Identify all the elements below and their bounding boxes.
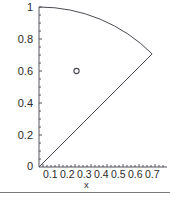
y-tick-label-0-2: 0.2 — [18, 130, 33, 141]
series-radius-line — [39, 54, 152, 167]
x-axis-title: x — [84, 180, 89, 190]
x-tick-label-0-7: 0.7 — [145, 168, 160, 180]
x-tick-label-0-4: 0.4 — [94, 168, 109, 180]
y-tick-label-0-8: 0.8 — [18, 34, 33, 45]
x-tick-label-0-6: 0.6 — [128, 168, 143, 180]
series-unit-circle-arc — [39, 7, 152, 54]
chart-figure: 1 0.8 0.6 0.4 0.2 0 0.1 0.2 0.3 0.4 0.5 … — [0, 0, 170, 201]
x-tick-label-0-2: 0.2 — [60, 168, 75, 180]
y-tick-label-0-4: 0.4 — [18, 98, 33, 109]
x-tick-label-0-5: 0.5 — [111, 168, 126, 180]
marker-point-icon — [74, 68, 79, 73]
x-tick-label-0-1: 0.1 — [43, 168, 58, 180]
y-tick-label-1: 1 — [27, 2, 33, 13]
bottom-divider — [0, 192, 170, 193]
y-tick-label-0-6: 0.6 — [18, 66, 33, 77]
